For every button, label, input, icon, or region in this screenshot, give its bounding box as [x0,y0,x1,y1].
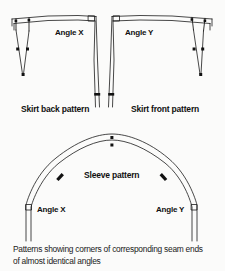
figure-caption: Patterns showing corners of correspondin… [13,244,219,267]
sleeve-back-notch [56,173,64,181]
diagram-page: Angle X Angle Y Skirt back pattern Skirt… [0,0,225,271]
angle-x-label-top: Angle X [55,28,83,37]
skirt-front-pattern-label: Skirt front pattern [131,104,199,114]
sleeve-cap-double-notch [110,136,113,147]
angle-y-label-top: Angle Y [125,28,153,37]
skirt-front-dart [194,30,204,74]
skirt-back-pattern-label: Skirt back pattern [21,104,89,114]
skirt-back-side-notch [94,93,100,96]
sleeve-pattern-outline [26,134,197,241]
skirt-back-dart [16,30,29,74]
sleeve-pattern-label: Sleeve pattern [84,170,139,180]
caption-line-2: of almost identical angles [13,256,219,268]
sleeve-front-notch [160,173,168,181]
skirt-front-waist-notches [192,17,205,31]
caption-line-1: Patterns showing corners of correspondin… [13,244,219,256]
skirt-front-side-notch [108,93,114,96]
skirt-back-waist-notches [16,18,29,31]
skirt-back-dart-marks [16,48,29,77]
angle-x-label-bottom: Angle X [37,205,65,214]
skirt-back-waist-notch-dots [15,19,31,22]
pattern-diagram-svg [0,0,225,271]
angle-y-label-bottom: Angle Y [156,205,184,214]
